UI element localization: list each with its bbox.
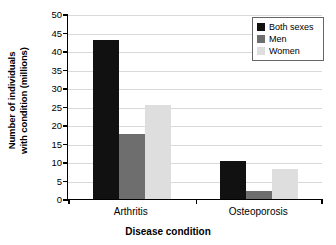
legend-swatch-icon xyxy=(257,35,265,43)
bar-arthritis-both xyxy=(93,40,119,199)
y-axis-tick-label: 15 xyxy=(36,140,62,150)
legend-item-both: Both sexes xyxy=(257,21,319,33)
y-axis-tick-mark xyxy=(63,162,68,164)
legend-label: Both sexes xyxy=(269,22,314,32)
y-axis-tick-label: 45 xyxy=(36,29,62,39)
y-axis-tick-mark xyxy=(63,181,68,183)
y-axis-tick-label: 50 xyxy=(36,10,62,20)
y-axis-tick-mark xyxy=(63,88,68,90)
bar-osteoporosis-women xyxy=(272,169,298,199)
bar-arthritis-men xyxy=(119,134,145,199)
y-axis-tick-label: 25 xyxy=(36,103,62,113)
x-axis-title: Disease condition xyxy=(0,226,336,237)
y-axis-tick-label: 0 xyxy=(36,195,62,205)
y-axis-title: Number of individuals with condition (mi… xyxy=(0,0,34,200)
y-axis-tick-labels: 05101520253035404550 xyxy=(36,0,62,245)
x-axis-tick-mark xyxy=(68,199,70,204)
legend-item-women: Women xyxy=(257,45,319,57)
y-axis-tick-label: 20 xyxy=(36,121,62,131)
y-axis-tick-mark xyxy=(63,33,68,35)
y-axis-title-line-2: with condition (millions) xyxy=(17,47,29,154)
legend-swatch-icon xyxy=(257,23,265,31)
x-axis-tick-mark xyxy=(196,199,198,204)
x-axis-tick-label-arthritis: Arthritis xyxy=(114,206,148,217)
y-axis-tick-mark xyxy=(63,107,68,109)
legend-label: Men xyxy=(269,34,287,44)
legend-swatch-icon xyxy=(257,47,265,55)
x-axis-tick-mark xyxy=(321,199,323,204)
y-axis-tick-mark xyxy=(63,14,68,16)
bar-arthritis-women xyxy=(145,105,171,199)
bar-osteoporosis-men xyxy=(246,191,272,200)
y-axis-tick-mark xyxy=(63,51,68,53)
y-axis-tick-label: 35 xyxy=(36,66,62,76)
y-axis-tick-mark xyxy=(63,125,68,127)
x-axis-tick-label-osteoporosis: Osteoporosis xyxy=(229,206,288,217)
y-axis-tick-label: 30 xyxy=(36,84,62,94)
y-axis-tick-label: 5 xyxy=(36,177,62,187)
legend-label: Women xyxy=(269,46,300,56)
y-axis-tick-label: 10 xyxy=(36,158,62,168)
legend-item-men: Men xyxy=(257,33,319,45)
bar-osteoporosis-both xyxy=(220,161,246,199)
y-axis-title-line-1: Number of individuals xyxy=(6,47,18,154)
y-axis-tick-mark xyxy=(63,144,68,146)
y-axis-tick-label: 40 xyxy=(36,47,62,57)
gridline xyxy=(68,15,322,16)
y-axis-tick-mark xyxy=(63,70,68,72)
legend: Both sexesMenWomen xyxy=(252,17,324,61)
bar-chart: Number of individuals with condition (mi… xyxy=(0,0,336,245)
